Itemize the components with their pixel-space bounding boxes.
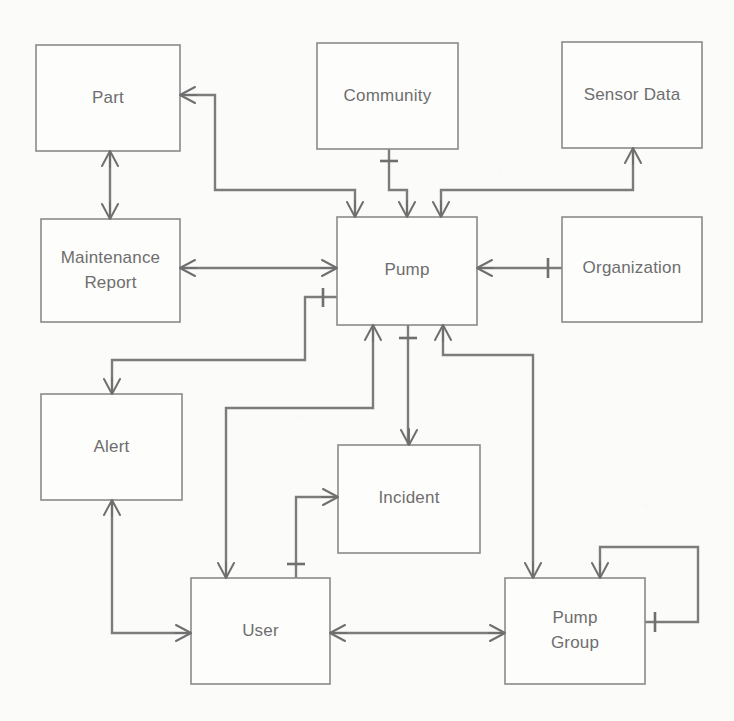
entity-maintenance-report[interactable]: Maintenance Report: [41, 219, 180, 322]
entity-incident[interactable]: Incident: [338, 445, 480, 553]
crowfoot-pumpgroup-top-right: [592, 562, 608, 578]
crowfoot-incident-top: [401, 429, 417, 445]
crowfoot-part-right: [180, 87, 196, 103]
crowfoot-sensordata-bottom: [625, 148, 641, 164]
entity-sensor-data[interactable]: Sensor Data: [562, 42, 702, 148]
crowfoot-maintenance-right: [180, 260, 196, 276]
crowfoot-user-top: [218, 562, 234, 578]
entity-pump-group[interactable]: Pump Group: [505, 578, 645, 684]
crowfoot-incident-left: [322, 489, 338, 505]
entity-label-community: Community: [344, 86, 432, 105]
crowfoot-alert-top: [104, 378, 120, 394]
crowfoot-part-bottom: [102, 151, 118, 167]
entity-part[interactable]: Part: [36, 45, 180, 151]
entity-alert[interactable]: Alert: [41, 394, 182, 500]
crowfoot-pump-top-left: [347, 201, 363, 217]
crowfoot-pump-right: [477, 260, 493, 276]
entity-label-alert: Alert: [94, 437, 130, 456]
crowfoot-pump-top-right: [433, 201, 449, 217]
entity-layer: Part Community Sensor Data Maintenance R…: [36, 42, 702, 684]
crowfoot-user-right: [330, 625, 346, 641]
connector-community-pump[interactable]: [389, 149, 407, 217]
entity-label-pump: Pump: [384, 260, 429, 279]
crowfoot-pump-top-middle: [399, 201, 415, 217]
crowfoot-user-left: [175, 625, 191, 641]
entity-community[interactable]: Community: [317, 43, 458, 149]
entity-label-pump-group-line2: Group: [551, 633, 599, 652]
connector-alert-user[interactable]: [112, 500, 191, 633]
crowfoot-pump-bottom-left: [365, 325, 381, 341]
entity-label-user: User: [242, 621, 279, 640]
entity-label-incident: Incident: [378, 488, 439, 507]
crowfoot-pump-left: [321, 260, 337, 276]
crowfoot-maintenance-top: [102, 203, 118, 219]
entity-user[interactable]: User: [191, 578, 330, 684]
crowfoot-pump-bottom-right: [435, 325, 451, 341]
crowfoot-pumpgroup-top-left: [525, 562, 541, 578]
entity-label-organization: Organization: [583, 258, 682, 277]
entity-label-maintenance-line1: Maintenance: [61, 248, 161, 267]
entity-label-sensor-data: Sensor Data: [584, 85, 681, 104]
entity-organization[interactable]: Organization: [562, 217, 702, 322]
crowfoot-pumpgroup-left: [489, 625, 505, 641]
entity-label-part: Part: [92, 88, 124, 107]
connector-sensordata-pump[interactable]: [441, 148, 633, 217]
entity-label-maintenance-line2: Report: [84, 273, 136, 292]
connector-incident-user[interactable]: [296, 497, 338, 578]
er-diagram-svg: Part Community Sensor Data Maintenance R…: [0, 0, 734, 721]
er-diagram-canvas: Part Community Sensor Data Maintenance R…: [0, 0, 734, 721]
cardinality-layer: [102, 87, 655, 641]
entity-label-pump-group-line1: Pump: [552, 608, 597, 627]
crowfoot-alert-bottom: [104, 500, 120, 516]
entity-pump[interactable]: Pump: [337, 217, 477, 325]
